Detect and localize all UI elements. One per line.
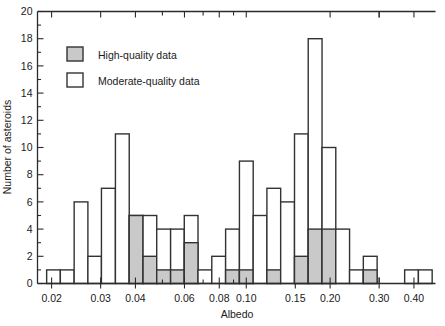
- chart-legend: High-quality dataModerate-quality data: [67, 47, 200, 87]
- bar-moderate: [198, 270, 212, 284]
- histogram-bar: [60, 270, 74, 284]
- histogram-bar: [115, 134, 129, 284]
- y-tick-label: 2: [27, 250, 33, 262]
- histogram-bar: [47, 270, 61, 284]
- histogram-bar: [267, 188, 281, 283]
- bar-high: [322, 229, 336, 283]
- bar-moderate: [336, 229, 350, 283]
- histogram-bar: [405, 270, 419, 284]
- bar-moderate: [239, 161, 253, 283]
- bar-high: [308, 229, 322, 283]
- bar-moderate: [47, 270, 61, 284]
- histogram-bar: [336, 229, 350, 283]
- x-tick-label: 0.03: [90, 292, 111, 304]
- x-tick-label: 0.06: [174, 292, 195, 304]
- bar-moderate: [253, 216, 267, 284]
- histogram-bar: [74, 202, 88, 284]
- bar-high: [171, 270, 185, 284]
- y-axis-ticks: [38, 12, 44, 284]
- x-tick-label: 0.15: [285, 292, 306, 304]
- x-tick-label: 0.20: [320, 292, 341, 304]
- bar-moderate: [281, 202, 295, 284]
- histogram-bar: [418, 270, 432, 284]
- histogram-bar: [171, 229, 185, 283]
- histogram-bar: [157, 229, 171, 283]
- histogram-bar: [88, 256, 102, 283]
- bar-high: [157, 270, 171, 284]
- legend-label: High-quality data: [98, 49, 177, 61]
- histogram-bar: [308, 39, 322, 284]
- histogram-bar: [322, 148, 336, 284]
- y-tick-label: 8: [27, 168, 33, 180]
- x-tick-label: 0.10: [236, 292, 257, 304]
- bar-moderate: [350, 270, 364, 284]
- bar-moderate: [418, 270, 432, 284]
- histogram-bar: [212, 256, 226, 283]
- bar-high: [129, 216, 143, 284]
- y-tick-label: 4: [27, 223, 33, 235]
- bar-high: [295, 256, 309, 283]
- chart-canvas: 0.020.030.040.060.080.100.150.200.300.40…: [0, 0, 445, 326]
- bar-high: [267, 270, 281, 284]
- legend-label: Moderate-quality data: [98, 75, 200, 87]
- histogram-bar: [350, 270, 364, 284]
- histogram-bar: [253, 216, 267, 284]
- x-tick-label: 0.30: [369, 292, 390, 304]
- histogram-bar: [101, 188, 115, 283]
- y-tick-label: 20: [21, 5, 33, 17]
- histogram-bar: [295, 134, 309, 284]
- legend-swatch: [67, 47, 83, 61]
- legend-swatch: [67, 73, 83, 87]
- x-tick-label: 0.02: [41, 292, 62, 304]
- x-tick-label: 0.40: [404, 292, 425, 304]
- x-axis-title: Albedo: [221, 308, 254, 320]
- bar-high: [143, 256, 157, 283]
- bar-moderate: [101, 188, 115, 283]
- bar-moderate: [74, 202, 88, 284]
- bar-moderate: [212, 256, 226, 283]
- bar-high: [363, 270, 377, 284]
- histogram-bar: [363, 256, 377, 283]
- bar-high: [184, 243, 198, 284]
- histogram-bar: [129, 216, 143, 284]
- bar-moderate: [405, 270, 419, 284]
- x-tick-label: 0.08: [209, 292, 230, 304]
- y-tick-label: 18: [21, 32, 33, 44]
- histogram-bar: [198, 270, 212, 284]
- bar-moderate: [88, 256, 102, 283]
- y-tick-label: 6: [27, 196, 33, 208]
- histogram-bar: [143, 216, 157, 284]
- x-tick-labels: 0.020.030.040.060.080.100.150.200.300.40: [41, 292, 424, 304]
- histogram-bar: [239, 161, 253, 283]
- y-tick-label: 14: [21, 87, 33, 99]
- bar-moderate: [60, 270, 74, 284]
- bar-moderate: [115, 134, 129, 284]
- y-tick-label: 12: [21, 114, 33, 126]
- histogram-figure: 0.020.030.040.060.080.100.150.200.300.40…: [0, 0, 445, 326]
- y-tick-label: 16: [21, 60, 33, 72]
- histogram-bar: [184, 216, 198, 284]
- y-tick-label: 10: [21, 141, 33, 153]
- y-axis-title: Number of asteroids: [1, 100, 13, 195]
- y-tick-labels: 02468101214161820: [21, 5, 33, 289]
- bar-high: [226, 270, 240, 284]
- y-tick-label: 0: [27, 277, 33, 289]
- histogram-bar: [281, 202, 295, 284]
- x-tick-label: 0.04: [125, 292, 146, 304]
- histogram-bar: [226, 229, 240, 283]
